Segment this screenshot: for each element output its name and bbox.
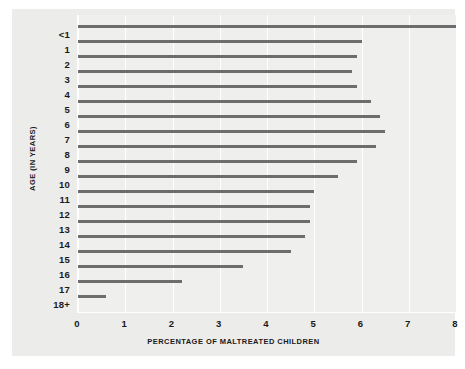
bar-5	[78, 100, 371, 103]
bar-row	[78, 20, 456, 35]
bar-lt1	[78, 25, 456, 28]
bar-2	[78, 55, 357, 58]
bar-11	[78, 190, 314, 193]
bar-row	[78, 215, 456, 230]
x-tick-label-6: 6	[349, 318, 373, 329]
x-tick-label-5: 5	[301, 318, 325, 329]
bar-10	[78, 175, 338, 178]
y-tick-label-12: 12	[20, 207, 70, 222]
bar-row	[78, 230, 456, 245]
bar-row	[78, 245, 456, 260]
y-tick-label-lt1: <1	[20, 27, 70, 42]
bar-8	[78, 145, 376, 148]
bar-17	[78, 280, 182, 283]
bar-row	[78, 275, 456, 290]
bar-15	[78, 250, 291, 253]
bar-9	[78, 160, 357, 163]
bar-16	[78, 265, 243, 268]
bar-18plus	[78, 295, 106, 298]
chart-panel: AGE (IN YEARS) <112345678910111213141516…	[12, 9, 455, 356]
y-tick-label-10: 10	[20, 177, 70, 192]
bar-row	[78, 35, 456, 50]
y-tick-label-15: 15	[20, 252, 70, 267]
bar-row	[78, 140, 456, 155]
y-tick-label-8: 8	[20, 147, 70, 162]
bar-7	[78, 130, 385, 133]
y-tick-label-9: 9	[20, 162, 70, 177]
x-tick-label-2: 2	[160, 318, 184, 329]
bar-row	[78, 200, 456, 215]
y-tick-label-7: 7	[20, 132, 70, 147]
bar-row	[78, 185, 456, 200]
bar-row	[78, 260, 456, 275]
y-tick-label-17: 17	[20, 282, 70, 297]
bar-row	[78, 125, 456, 140]
x-tick-label-4: 4	[254, 318, 278, 329]
y-tick-label-14: 14	[20, 237, 70, 252]
bar-row	[78, 50, 456, 65]
y-tick-label-13: 13	[20, 222, 70, 237]
y-tick-label-5: 5	[20, 102, 70, 117]
x-tick-label-8: 8	[443, 318, 465, 329]
bar-row	[78, 290, 456, 305]
x-tick-label-7: 7	[396, 318, 420, 329]
y-tick-label-18plus: 18+	[20, 297, 70, 312]
bar-4	[78, 85, 357, 88]
bar-row	[78, 170, 456, 185]
y-tick-label-11: 11	[20, 192, 70, 207]
chart-figure: AGE (IN YEARS) <112345678910111213141516…	[0, 0, 465, 369]
y-tick-label-4: 4	[20, 87, 70, 102]
bar-3	[78, 70, 352, 73]
y-axis-tick-labels: <1123456789101112131415161718+	[12, 24, 70, 321]
bar-13	[78, 220, 310, 223]
x-axis-title: PERCENTAGE OF MALTREATED CHILDREN	[12, 337, 455, 346]
plot-area	[77, 15, 456, 312]
bar-row	[78, 95, 456, 110]
bar-row	[78, 155, 456, 170]
y-tick-label-3: 3	[20, 72, 70, 87]
bar-row	[78, 80, 456, 95]
gridline-x-8	[456, 15, 457, 312]
bar-row	[78, 110, 456, 125]
bar-14	[78, 235, 305, 238]
bar-6	[78, 115, 380, 118]
bar-1	[78, 40, 362, 43]
x-tick-label-3: 3	[207, 318, 231, 329]
y-tick-label-16: 16	[20, 267, 70, 282]
bar-row	[78, 65, 456, 80]
y-tick-label-1: 1	[20, 42, 70, 57]
x-axis: 012345678	[77, 312, 456, 333]
y-tick-label-6: 6	[20, 117, 70, 132]
x-tick-label-1: 1	[112, 318, 136, 329]
bar-12	[78, 205, 310, 208]
y-tick-label-2: 2	[20, 57, 70, 72]
x-tick-label-0: 0	[65, 318, 89, 329]
